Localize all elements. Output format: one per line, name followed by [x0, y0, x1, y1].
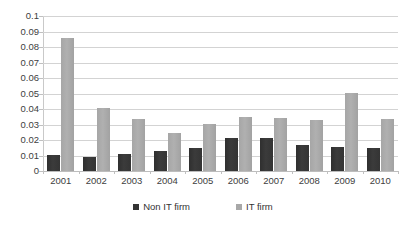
bar-it-firm-2002[interactable] [97, 108, 110, 171]
y-axis-labels: 0.10.090.080.070.060.050.040.030.020.010 [0, 0, 39, 227]
y-axis-tick-label: 0.03 [0, 120, 39, 130]
x-axis-tick-label: 2007 [256, 174, 292, 190]
bar-group [221, 16, 257, 171]
x-axis-tick-label: 2010 [363, 174, 399, 190]
legend-swatch-icon-non-it-firm [133, 204, 139, 210]
bar-it-firm-2004[interactable] [168, 133, 181, 171]
legend-label-it-firm: IT firm [246, 202, 273, 212]
y-axis-tick-label: 0.07 [0, 58, 39, 68]
y-axis-tick-label: 0.04 [0, 104, 39, 114]
bar-it-firm-2010[interactable] [381, 119, 394, 171]
bar-group [79, 16, 115, 171]
bar-it-firm-2006[interactable] [239, 117, 252, 171]
x-axis-tick [398, 171, 399, 174]
x-axis-tick-label: 2002 [79, 174, 115, 190]
bar-group [114, 16, 150, 171]
x-axis-tick-label: 2009 [327, 174, 363, 190]
bar-non-it-firm-2008[interactable] [296, 145, 309, 171]
y-axis-tick-label: 0.02 [0, 135, 39, 145]
bar-non-it-firm-2005[interactable] [189, 148, 202, 171]
legend-swatch-icon-it-firm [236, 204, 242, 210]
bar-it-firm-2009[interactable] [345, 93, 358, 171]
bar-non-it-firm-2007[interactable] [260, 138, 273, 171]
legend-label-non-it-firm: Non IT firm [143, 202, 190, 212]
y-axis-tick-label: 0.01 [0, 151, 39, 161]
bar-chart: 0.10.090.080.070.060.050.040.030.020.010… [0, 0, 406, 227]
chart-legend: Non IT firm IT firm [0, 202, 406, 212]
legend-item-it-firm[interactable]: IT firm [236, 202, 273, 212]
bar-groups [43, 16, 398, 171]
bar-group [43, 16, 79, 171]
bar-it-firm-2008[interactable] [310, 120, 323, 171]
x-axis-tick-label: 2005 [185, 174, 221, 190]
bar-non-it-firm-2009[interactable] [331, 147, 344, 171]
y-axis-tick-label: 0.06 [0, 73, 39, 83]
bar-group [363, 16, 399, 171]
bar-group [185, 16, 221, 171]
bar-it-firm-2001[interactable] [61, 38, 74, 171]
x-axis-tick-label: 2008 [292, 174, 328, 190]
y-axis-tick-label: 0.1 [0, 11, 39, 21]
legend-item-non-it-firm[interactable]: Non IT firm [133, 202, 190, 212]
bar-group [327, 16, 363, 171]
x-axis-tick-label: 2001 [43, 174, 79, 190]
y-axis-tick-label: 0.09 [0, 27, 39, 37]
x-axis-tick-label: 2003 [114, 174, 150, 190]
bar-non-it-firm-2001[interactable] [47, 155, 60, 171]
x-axis-tick-label: 2006 [221, 174, 257, 190]
y-axis-tick-label: 0.05 [0, 89, 39, 99]
bar-group [256, 16, 292, 171]
x-axis-tick-label: 2004 [150, 174, 186, 190]
bar-non-it-firm-2002[interactable] [83, 157, 96, 171]
x-axis-labels: 2001200220032004200520062007200820092010 [43, 174, 398, 190]
bar-it-firm-2003[interactable] [132, 119, 145, 171]
y-axis-tick-label: 0.08 [0, 42, 39, 52]
plot-area [43, 16, 398, 171]
bar-it-firm-2007[interactable] [274, 118, 287, 171]
bar-it-firm-2005[interactable] [203, 124, 216, 171]
bar-non-it-firm-2003[interactable] [118, 154, 131, 171]
bar-group [292, 16, 328, 171]
bar-non-it-firm-2006[interactable] [225, 138, 238, 171]
y-axis-tick-label: 0 [0, 166, 39, 176]
bar-group [150, 16, 186, 171]
bar-non-it-firm-2004[interactable] [154, 151, 167, 171]
bar-non-it-firm-2010[interactable] [367, 148, 380, 171]
